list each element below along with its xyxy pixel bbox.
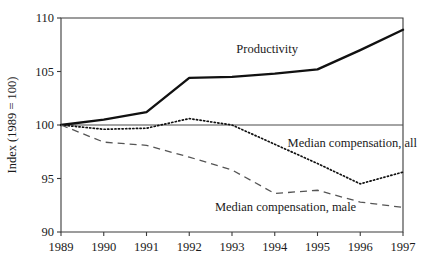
x-tick-label-1994: 1994 [262, 240, 288, 254]
series-annotation-2: Median compensation, male [215, 200, 357, 214]
y-axis-title: Index (1989 = 100) [5, 77, 19, 174]
series-line-0 [61, 30, 403, 125]
y-tick-label-95: 95 [42, 172, 55, 186]
x-tick-label-1997: 1997 [391, 240, 416, 254]
y-tick-label-110: 110 [36, 11, 54, 25]
series-annotation-0: Productivity [236, 42, 299, 56]
x-tick-label-1989: 1989 [49, 240, 74, 254]
y-tick-label-90: 90 [42, 225, 55, 239]
x-tick-label-1993: 1993 [220, 240, 245, 254]
y-tick-label-105: 105 [35, 65, 54, 79]
line-chart: 9095100105110198919901991199219931994199… [0, 0, 427, 269]
series-annotation-1: Median compensation, all [288, 136, 418, 150]
x-tick-label-1990: 1990 [91, 240, 116, 254]
y-tick-label-100: 100 [35, 118, 54, 132]
x-tick-label-1996: 1996 [348, 240, 373, 254]
x-tick-label-1995: 1995 [305, 240, 330, 254]
series-line-1 [61, 119, 403, 184]
x-tick-label-1991: 1991 [134, 240, 159, 254]
x-tick-label-1992: 1992 [177, 240, 202, 254]
chart-container: 9095100105110198919901991199219931994199… [0, 0, 427, 269]
